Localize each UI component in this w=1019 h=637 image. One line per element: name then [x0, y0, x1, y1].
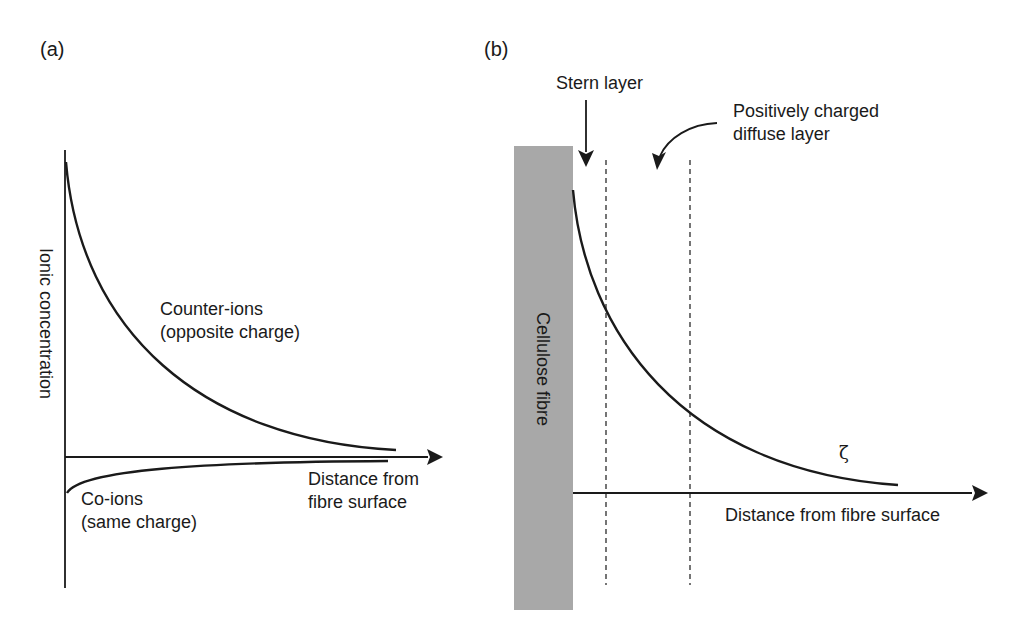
diffuse-layer-arrowhead	[652, 152, 666, 170]
panel-a-x-axis-label-line2: fibre surface	[308, 491, 419, 514]
co-ions-label-line1: Co-ions	[81, 488, 197, 511]
panel-a-x-axis-label: Distance from fibre surface	[308, 468, 419, 514]
panel-a-label: (a)	[40, 38, 64, 61]
co-ions-label: Co-ions (same charge)	[81, 488, 197, 534]
panel-b-label: (b)	[484, 38, 508, 61]
potential-curve	[573, 190, 898, 485]
panel-b-graphics	[514, 100, 988, 610]
diffuse-layer-label-line2: diffuse layer	[733, 123, 879, 146]
panel-b-x-axis-arrowhead	[972, 485, 988, 501]
diffuse-layer-label: Positively charged diffuse layer	[733, 100, 879, 146]
diffuse-layer-label-line1: Positively charged	[733, 100, 879, 123]
counter-ions-label-line1: Counter-ions	[160, 298, 300, 321]
panel-a-y-axis-label: Ionic concentration	[34, 248, 57, 399]
zeta-potential-symbol: ζ	[839, 441, 849, 464]
stern-layer-label: Stern layer	[556, 72, 643, 95]
panel-b-x-axis-label: Distance from fibre surface	[725, 504, 940, 527]
panel-a-x-axis-label-line1: Distance from	[308, 468, 419, 491]
co-ions-label-line2: (same charge)	[81, 511, 197, 534]
panel-a-x-axis-arrowhead	[427, 449, 443, 465]
counter-ions-label-line2: (opposite charge)	[160, 321, 300, 344]
cellulose-fibre-label: Cellulose fibre	[531, 312, 554, 426]
diffuse-layer-curved-arrow	[660, 123, 717, 156]
stern-layer-arrowhead	[578, 150, 594, 167]
diagram-canvas	[0, 0, 1019, 637]
counter-ions-label: Counter-ions (opposite charge)	[160, 298, 300, 344]
